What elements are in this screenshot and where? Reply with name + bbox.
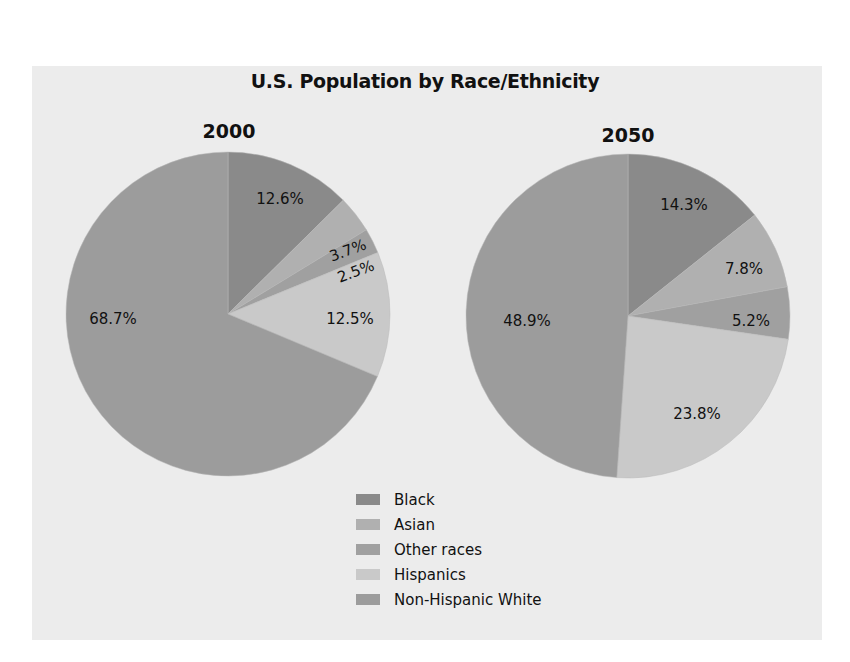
legend: Black Asian Other races Hispanics Non-Hi… [356, 487, 542, 612]
slice-value-label: 12.5% [326, 310, 374, 328]
legend-item-non-hispanic-white: Non-Hispanic White [356, 587, 542, 612]
legend-item-hispanics: Hispanics [356, 562, 542, 587]
legend-item-black: Black [356, 487, 542, 512]
slice-value-label: 68.7% [89, 310, 137, 328]
slice-value-label: 5.2% [732, 312, 770, 330]
legend-label: Hispanics [394, 566, 466, 584]
legend-label: Asian [394, 516, 435, 534]
pie-chart-2050: 14.3%7.8%5.2%23.8%48.9% [466, 154, 790, 478]
slice-value-label: 14.3% [660, 196, 708, 214]
legend-label: Black [394, 491, 435, 509]
slice-value-label: 23.8% [673, 405, 721, 423]
legend-item-other-races: Other races [356, 537, 542, 562]
slice-value-label: 12.6% [256, 190, 304, 208]
legend-swatch [356, 569, 380, 580]
legend-swatch [356, 544, 380, 555]
legend-label: Non-Hispanic White [394, 591, 542, 609]
legend-swatch [356, 519, 380, 530]
slice-value-label: 48.9% [503, 312, 551, 330]
pie-chart-2000: 12.6%3.7%2.5%12.5%68.7% [66, 152, 390, 476]
legend-swatch [356, 494, 380, 505]
legend-label: Other races [394, 541, 482, 559]
legend-swatch [356, 594, 380, 605]
legend-item-asian: Asian [356, 512, 542, 537]
pie-slice-hispanics [617, 316, 788, 478]
slice-value-label: 7.8% [725, 260, 763, 278]
